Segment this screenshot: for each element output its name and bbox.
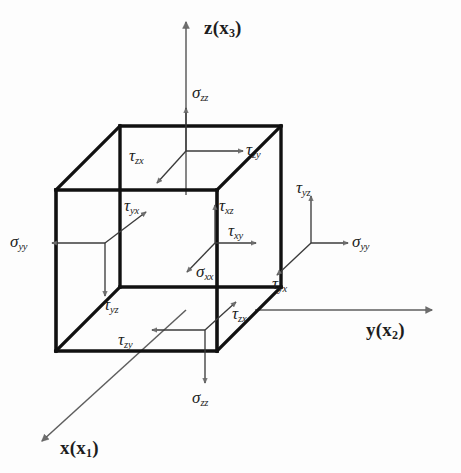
tau-zy-bottom-label: τzy	[118, 331, 132, 351]
sigma-zz-bottom-label: σzz	[192, 389, 208, 409]
sigma-xx-front-label: σxx	[196, 263, 213, 283]
tau-zx-bottom-subscript: zx	[238, 313, 246, 324]
tau-yx-right-label: τyx	[272, 275, 287, 295]
tau-zx-top-subscript: zx	[135, 155, 143, 166]
tau-zx-bottom-label: τzx	[232, 305, 246, 325]
sigma-zz-top-subscript: zz	[200, 92, 208, 103]
cube-edge-diag-top-left	[56, 126, 120, 190]
sigma-yy-left-label: σyy	[10, 233, 27, 253]
sigma-zz-top-label: σzz	[192, 84, 208, 104]
tau-yx-left-arrow	[105, 212, 146, 243]
tau-yx-left-subscript: yx	[130, 205, 139, 216]
y-axis-paren-open: (x	[376, 319, 392, 340]
x-axis-paren-close: )	[92, 437, 99, 458]
right-face-stress-triad	[277, 196, 348, 275]
tau-xz-front-subscript: xz	[225, 205, 233, 216]
tau-yz-right-subscript: yz	[302, 187, 310, 198]
left-face-stress-triad	[52, 212, 146, 296]
tau-zy-top-label: τzy	[246, 141, 260, 161]
tau-xz-front-label: τxz	[219, 197, 233, 217]
z-axis-label: z(x3)	[204, 18, 242, 39]
tau-zy-bottom-subscript: zy	[124, 339, 132, 350]
tau-yz-left-subscript: yz	[110, 304, 118, 315]
top-face-stress-triad	[157, 108, 243, 183]
z-axis-paren-close: )	[235, 17, 242, 38]
x-axis-symbol: x	[60, 437, 70, 458]
sigma-yy-right-subscript: yy	[360, 241, 369, 252]
tau-yz-left-label: τyz	[104, 296, 118, 316]
tau-zx-top-arrow	[157, 151, 186, 183]
tau-zy-top-subscript: zy	[252, 149, 260, 160]
z-axis-paren-open: (x	[213, 17, 229, 38]
cube-edge-diag-bottom-right	[217, 287, 281, 351]
tau-zx-top-label: τzx	[129, 147, 143, 167]
sigma-zz-bottom-subscript: zz	[200, 397, 208, 408]
y-axis-symbol: y	[366, 319, 376, 340]
x-axis-label: x(x1)	[60, 438, 99, 459]
sigma-xx-front-subscript: xx	[204, 271, 213, 282]
z-axis-symbol: z	[204, 17, 213, 38]
tau-yx-right-subscript: yx	[278, 283, 287, 294]
tau-yx-left-label: τyx	[124, 197, 139, 217]
y-axis-label: y(x2)	[366, 320, 405, 341]
sigma-yy-left-subscript: yy	[18, 241, 27, 252]
x-axis-paren-open: (x	[70, 437, 86, 458]
tau-yz-right-label: τyz	[296, 179, 310, 199]
sigma-yy-right-label: σyy	[352, 233, 369, 253]
tau-xy-front-label: τxy	[228, 222, 243, 242]
tau-xy-front-subscript: xy	[234, 230, 243, 241]
stress-tensor-diagram: z(x3) y(x2) x(x1) σzz τzx τzy σyy τyx τy…	[0, 0, 461, 473]
y-axis-paren-close: )	[398, 319, 405, 340]
